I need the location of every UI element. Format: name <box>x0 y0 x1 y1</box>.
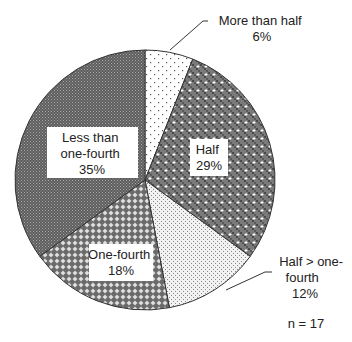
leader-line-more-than-half <box>170 21 208 50</box>
label-half: Half 29% <box>196 142 223 173</box>
label-more-than-half: More than half 6% <box>219 13 306 44</box>
label-half-gt-one-fourth: Half > one- fourth 12% <box>279 254 347 301</box>
pie-chart: More than half 6% Half 29% Half > one- f… <box>0 0 352 342</box>
sample-size-annotation: n = 17 <box>288 316 325 331</box>
